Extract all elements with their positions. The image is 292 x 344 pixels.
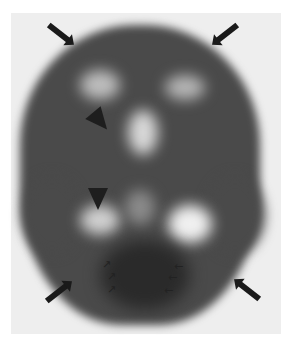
small-arrow-left-3: ↗ — [107, 284, 116, 295]
frontal-bright-left — [80, 70, 120, 100]
midbrain — [125, 190, 155, 225]
small-arrow-right-3: ← — [164, 285, 173, 296]
temporal-lobe-left — [22, 175, 82, 255]
small-arrow-left-1: ↗ — [102, 259, 111, 270]
frontal-bright-right — [165, 75, 205, 100]
small-arrow-left-2: ↗ — [107, 271, 116, 282]
thalamus-right — [168, 205, 212, 243]
arrowhead-lower — [88, 188, 108, 210]
basal-ganglia-center — [128, 110, 158, 155]
small-arrow-right-2: ← — [168, 272, 177, 283]
temporal-lobe-right — [205, 175, 265, 255]
